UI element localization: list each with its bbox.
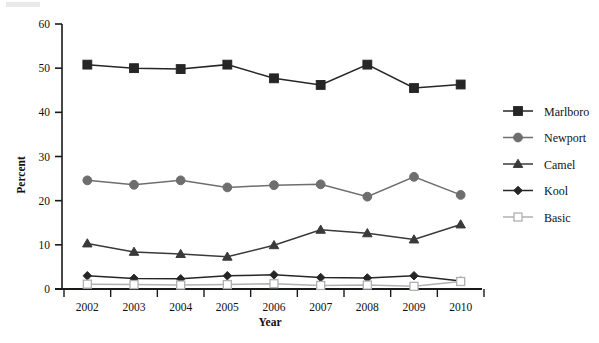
data-marker <box>514 186 523 195</box>
data-marker <box>410 271 419 280</box>
data-marker <box>410 172 419 181</box>
data-marker <box>130 180 139 189</box>
data-marker <box>83 60 92 69</box>
legend-item-newport[interactable]: Newport <box>503 131 587 145</box>
x-tick-label: 2010 <box>449 301 472 313</box>
data-marker <box>83 280 91 288</box>
series-newport <box>83 172 465 201</box>
data-marker <box>223 183 232 192</box>
y-tick-label: 0 <box>44 283 50 295</box>
data-marker <box>270 280 278 288</box>
legend-item-kool[interactable]: Kool <box>503 184 569 198</box>
chart-legend: MarlboroNewportCamelKoolBasic <box>503 105 589 225</box>
data-marker <box>223 60 232 69</box>
legend-label: Marlboro <box>544 105 589 119</box>
data-marker <box>223 281 231 289</box>
y-tick-label: 60 <box>39 18 51 30</box>
legend-label: Basic <box>544 211 571 225</box>
data-marker <box>363 281 371 289</box>
data-marker <box>456 191 465 200</box>
data-marker <box>270 181 279 190</box>
data-marker <box>223 271 232 280</box>
data-marker <box>316 180 325 189</box>
data-marker <box>410 84 419 93</box>
y-tick-label: 40 <box>39 106 51 118</box>
data-marker <box>83 271 92 280</box>
y-tick-label: 50 <box>39 62 51 74</box>
x-tick-label: 2003 <box>123 301 146 313</box>
y-tick-label: 10 <box>39 239 51 251</box>
y-tick-label: 20 <box>39 195 51 207</box>
data-marker <box>514 107 523 116</box>
line-chart: 0102030405060 20022003200420052006200720… <box>0 0 599 343</box>
data-marker <box>130 64 139 73</box>
x-tick-label: 2008 <box>356 301 379 313</box>
data-marker <box>176 65 185 74</box>
data-marker <box>456 80 465 89</box>
data-marker <box>316 81 325 90</box>
x-tick-label: 2007 <box>309 301 332 313</box>
data-marker <box>316 225 326 233</box>
series-marlboro <box>83 60 465 92</box>
data-marker <box>176 176 185 185</box>
legend-item-basic[interactable]: Basic <box>503 211 571 225</box>
x-tick-label: 2006 <box>263 301 286 313</box>
x-tick-label: 2002 <box>76 301 99 313</box>
x-tick-label: 2004 <box>169 301 192 313</box>
y-axis-ticks: 0102030405060 <box>39 18 63 295</box>
data-marker <box>130 281 138 289</box>
x-tick-label: 2005 <box>216 301 239 313</box>
data-marker <box>177 281 185 289</box>
data-marker <box>514 133 523 142</box>
data-marker <box>456 220 466 228</box>
data-marker <box>363 192 372 201</box>
legend-label: Newport <box>544 131 587 145</box>
data-marker <box>514 213 522 221</box>
data-marker <box>83 239 93 247</box>
y-tick-label: 30 <box>39 151 51 163</box>
y-axis-title: Percent <box>15 156 27 194</box>
data-marker <box>457 277 465 285</box>
series-layer <box>83 60 466 290</box>
chart-canvas: 0102030405060 20022003200420052006200720… <box>0 0 599 343</box>
data-marker <box>316 273 325 282</box>
data-marker <box>270 271 279 280</box>
legend-label: Kool <box>544 184 569 198</box>
legend-item-marlboro[interactable]: Marlboro <box>503 105 589 119</box>
legend-label: Camel <box>544 158 576 172</box>
x-tick-label: 2009 <box>403 301 426 313</box>
legend-item-camel[interactable]: Camel <box>503 158 576 172</box>
data-marker <box>317 281 325 289</box>
page-artifact <box>6 2 40 7</box>
series-camel <box>83 220 466 260</box>
data-marker <box>363 60 372 69</box>
x-axis-title: Year <box>259 316 282 328</box>
x-axis-ticks: 200220032004200520062007200820092010 <box>64 289 484 313</box>
data-marker <box>270 74 279 83</box>
data-marker <box>83 176 92 185</box>
data-marker <box>410 282 418 290</box>
